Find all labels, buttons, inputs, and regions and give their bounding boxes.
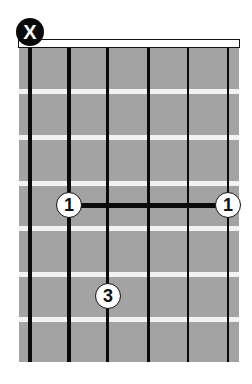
chord-diagram: 1 1 3 X — [0, 0, 252, 384]
fret-line-5 — [19, 272, 239, 277]
finger-marker-string4-fret6: 3 — [95, 283, 121, 309]
muted-string-x-icon: X — [16, 18, 44, 46]
mute-label: X — [23, 21, 36, 44]
fret-line-6 — [19, 317, 239, 322]
fret-line-3 — [19, 181, 239, 186]
fret-line-2 — [19, 135, 239, 140]
barre-bar — [69, 203, 228, 208]
nut — [18, 39, 240, 48]
finger-marker-string5-fret4: 1 — [56, 192, 82, 218]
finger-label: 1 — [223, 195, 233, 216]
finger-marker-string1-fret4: 1 — [215, 192, 241, 218]
string-6 — [28, 46, 32, 362]
fret-line-1 — [19, 89, 239, 94]
fret-line-4 — [19, 226, 239, 231]
finger-label: 1 — [64, 195, 74, 216]
finger-label: 3 — [103, 286, 113, 307]
